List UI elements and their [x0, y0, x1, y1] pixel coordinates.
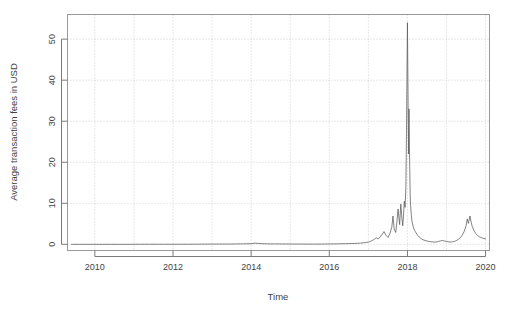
x-tick-label: 2012: [163, 262, 183, 272]
y-tick-label: 30: [47, 116, 57, 126]
x-tick-label: 2020: [476, 262, 496, 272]
y-tick-label: 0: [47, 242, 57, 247]
y-tick-label: 40: [47, 75, 57, 85]
x-tick-label: 2010: [85, 262, 105, 272]
y-axis-title: Average transaction fees in USD: [8, 63, 19, 201]
y-tick-label: 20: [47, 157, 57, 167]
x-tick-label: 2014: [241, 262, 261, 272]
x-tick-label: 2018: [397, 262, 417, 272]
y-tick-label: 50: [47, 34, 57, 44]
x-tick-label: 2016: [319, 262, 339, 272]
y-tick-label: 10: [47, 198, 57, 208]
x-axis-title: Time: [268, 291, 289, 302]
line-chart: 20102012201420162018202001020304050 Time…: [0, 0, 508, 312]
chart-figure: 20102012201420162018202001020304050 Time…: [0, 0, 508, 312]
